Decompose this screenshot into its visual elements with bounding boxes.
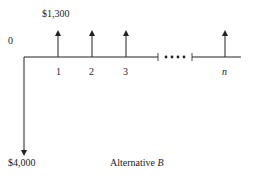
caption-variable: B [157, 157, 163, 168]
outlay-amount-label: $4,000 [8, 158, 36, 168]
period-label-2: 2 [89, 67, 94, 77]
diagram-caption: Alternative B [110, 158, 164, 168]
origin-label: 0 [8, 36, 13, 46]
receipt-amount-label: $1,300 [42, 9, 70, 19]
period-label-n: n [222, 67, 227, 77]
period-label-3: 3 [123, 67, 128, 77]
cash-flow-diagram [0, 0, 257, 178]
period-label-1: 1 [56, 67, 61, 77]
ellipsis-dots [165, 56, 186, 59]
caption-text: Alternative [110, 157, 157, 168]
